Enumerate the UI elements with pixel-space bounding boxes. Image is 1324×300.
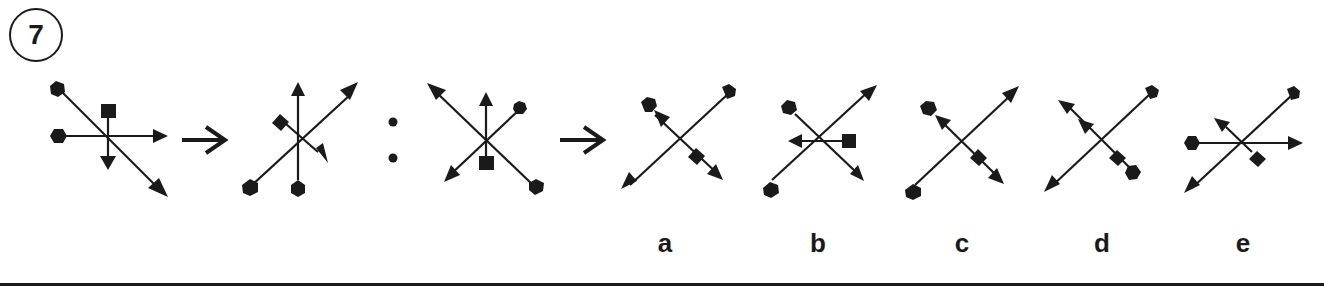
arrowhead-icon: [1184, 176, 1200, 193]
arrowhead-icon: [621, 172, 637, 189]
pentagon-icon: [529, 179, 544, 195]
hexagon-icon: [920, 101, 937, 116]
ratio-dot-icon: [389, 118, 398, 127]
option-d-label[interactable]: d: [1087, 228, 1117, 259]
arrowhead-icon: [291, 82, 305, 96]
diamond-icon: [272, 114, 289, 131]
option-c-figure: [905, 86, 1019, 200]
option-a-figure: [621, 84, 736, 189]
arrowhead-icon: [340, 82, 358, 100]
figure-a-premise: [50, 81, 168, 197]
arrowhead-icon: [479, 92, 493, 106]
option-a-label[interactable]: a: [650, 228, 680, 259]
arrowhead-icon: [1288, 136, 1303, 150]
option-d-figure: [1044, 85, 1159, 192]
option-e-figure: [1184, 86, 1303, 193]
hexagon-icon: [1125, 165, 1141, 180]
arrowhead-icon: [316, 143, 328, 163]
pentagon-icon: [763, 182, 779, 198]
diamond-icon: [688, 148, 705, 165]
arrowhead-icon: [100, 156, 116, 170]
pentagon-icon: [905, 184, 921, 200]
diamond-icon: [1249, 151, 1266, 167]
hexagon-icon: [641, 97, 657, 112]
square-icon: [101, 104, 116, 118]
arrowhead-icon: [654, 110, 670, 127]
hexagon-icon: [50, 129, 67, 143]
ratio-dot-icon: [389, 154, 398, 163]
transform-arrow-icon: [182, 127, 225, 153]
arrowhead-icon: [153, 129, 168, 143]
hexagon-icon: [291, 180, 305, 197]
option-b-figure: [763, 85, 877, 198]
transform-arrow-icon: [560, 127, 603, 153]
pentagon-icon: [50, 81, 65, 97]
option-b-label[interactable]: b: [803, 228, 833, 259]
hexagon-icon: [513, 101, 527, 114]
diamond-icon: [1109, 150, 1126, 166]
figure-b-result: [242, 82, 358, 197]
arrowhead-icon: [1044, 175, 1060, 192]
square-icon: [479, 156, 494, 170]
arrowhead-icon: [860, 85, 877, 101]
option-c-label[interactable]: c: [947, 228, 977, 259]
separator-line: [0, 283, 1324, 286]
figure-c-query: [427, 83, 544, 195]
hexagon-icon: [1184, 136, 1200, 150]
hexagon-icon: [781, 100, 797, 115]
option-e-label[interactable]: e: [1228, 228, 1258, 259]
square-icon: [842, 134, 856, 148]
arrowhead-icon: [788, 134, 802, 148]
arrowhead-icon: [1078, 119, 1094, 134]
